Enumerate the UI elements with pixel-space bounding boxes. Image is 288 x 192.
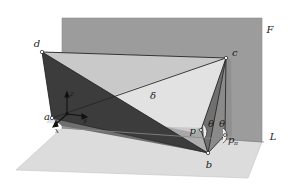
axis-origin-dot bbox=[66, 113, 69, 116]
label-axis-x: x bbox=[55, 127, 59, 135]
vertex-a bbox=[50, 116, 53, 119]
label-point-d: d bbox=[34, 38, 40, 49]
vertex-b bbox=[206, 151, 209, 154]
label-point-c: c bbox=[232, 47, 238, 58]
label-line-L: L bbox=[269, 131, 277, 142]
label-angle-theta-right: θ bbox=[219, 118, 225, 129]
label-point-a: a bbox=[44, 111, 50, 122]
label-angle-theta-left: θ bbox=[208, 118, 214, 129]
figure-canvas: d c a b p p π F L δ θ θ z y x bbox=[0, 0, 288, 192]
vertex-p-pi bbox=[224, 134, 227, 137]
label-point-b: b bbox=[206, 159, 212, 170]
vertex-c bbox=[224, 56, 227, 59]
vertex-p bbox=[200, 129, 203, 132]
geometry-diagram: d c a b p p π F L δ θ θ z y x bbox=[0, 0, 288, 192]
label-wedge-delta: δ bbox=[150, 90, 156, 101]
label-plane-F: F bbox=[266, 24, 275, 35]
vertex-d bbox=[40, 50, 43, 53]
label-axis-z: z bbox=[69, 90, 74, 98]
label-point-p: p bbox=[190, 125, 197, 136]
